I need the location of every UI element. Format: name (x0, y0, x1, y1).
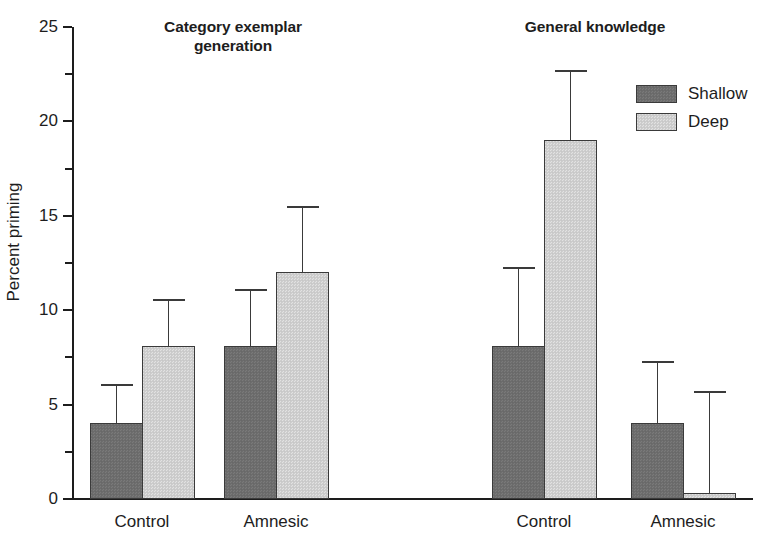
y-tick-major (63, 309, 72, 311)
error-bar-cap-right-amnesic-shallow (642, 361, 674, 363)
error-bar-stem-right-amnesic-shallow (657, 361, 659, 423)
y-tick-label: 5 (22, 396, 58, 413)
y-tick-major (63, 120, 72, 122)
legend: ShallowDeep (636, 82, 766, 138)
error-bar-stem-left-control-deep (168, 299, 170, 346)
y-tick-major (63, 404, 72, 406)
error-bar-cap-left-control-deep (153, 299, 185, 301)
error-bar-cap-left-amnesic-deep (287, 206, 319, 208)
y-tick-major (63, 498, 72, 500)
y-tick-minor (65, 73, 72, 75)
group-label-control-2: Control (484, 512, 604, 532)
bar-left-control-shallow (90, 423, 143, 499)
legend-label-deep: Deep (688, 110, 729, 133)
y-tick-label: 25 (22, 18, 58, 35)
error-bar-cap-right-amnesic-deep (694, 391, 726, 393)
error-bar-stem-right-amnesic-deep (709, 391, 711, 493)
group-label-amnesic-1: Amnesic (216, 512, 336, 532)
y-axis-line (72, 27, 74, 500)
panel-title-category-exemplar-generation: Category exemplar generation (128, 17, 338, 55)
error-bar-cap-right-control-shallow (503, 267, 535, 269)
error-bar-cap-left-control-shallow (101, 384, 133, 386)
y-tick-label: 10 (22, 301, 58, 318)
y-axis-tick-labels: 0510152025 (14, 0, 58, 550)
bar-right-amnesic-shallow (631, 423, 684, 499)
bar-right-control-deep (544, 140, 597, 499)
legend-item-shallow: Shallow (636, 82, 766, 110)
error-bar-cap-right-control-deep (555, 70, 587, 72)
error-bar-stem-right-control-deep (570, 70, 572, 140)
error-bar-stem-left-amnesic-shallow (250, 289, 252, 346)
panel-title-general-knowledge: General knowledge (480, 17, 710, 36)
y-tick-minor (65, 451, 72, 453)
error-bar-cap-left-amnesic-shallow (235, 289, 267, 291)
y-tick-minor (65, 168, 72, 170)
legend-label-shallow: Shallow (688, 82, 748, 105)
y-tick-label: 20 (22, 112, 58, 129)
group-label-amnesic-3: Amnesic (623, 512, 743, 532)
group-label-control-0: Control (82, 512, 202, 532)
bar-right-control-shallow (492, 346, 545, 499)
y-tick-label: 0 (22, 490, 58, 507)
bar-left-amnesic-deep (276, 272, 329, 499)
y-tick-major (63, 26, 72, 28)
legend-swatch-shallow (636, 85, 677, 103)
legend-swatch-deep (636, 113, 677, 131)
y-tick-label: 15 (22, 207, 58, 224)
error-bar-stem-left-amnesic-deep (302, 206, 304, 272)
error-bar-stem-right-control-shallow (518, 267, 520, 346)
bar-right-amnesic-deep (683, 493, 736, 499)
bar-left-control-deep (142, 346, 195, 499)
y-tick-major (63, 215, 72, 217)
legend-item-deep: Deep (636, 110, 766, 138)
bar-left-amnesic-shallow (224, 346, 277, 499)
chart-canvas: Category exemplar generation General kno… (0, 0, 767, 550)
error-bar-stem-left-control-shallow (116, 384, 118, 424)
y-tick-minor (65, 262, 72, 264)
y-tick-minor (65, 356, 72, 358)
